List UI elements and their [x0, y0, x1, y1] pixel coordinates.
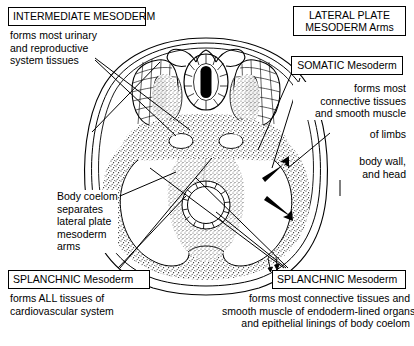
diagram-page: INTERMEDIATE MESODERM forms most urinary…	[0, 0, 414, 346]
label-splanchnic-mesoderm-left-body: forms ALL tissues of cardiovascular syst…	[10, 292, 114, 317]
label-somatic-mesoderm-heading: SOMATIC Mesoderm	[291, 56, 403, 75]
label-lateral-plate-mesoderm-heading: LATERAL PLATE MESODERM Arms	[293, 6, 406, 36]
neural-tube	[184, 54, 228, 110]
label-somatic-of-limbs: of limbs	[330, 128, 406, 141]
label-somatic-mesoderm-body: forms most connective tissues and smooth…	[293, 82, 406, 120]
label-splanchnic-mesoderm-right-body: forms most connective tissues and smooth…	[222, 292, 410, 330]
label-body-coelom: Body coelom separates lateral plate meso…	[57, 190, 118, 253]
label-intermediate-mesoderm-body: forms most urinary and reproductive syst…	[10, 29, 97, 67]
label-intermediate-mesoderm-heading: INTERMEDIATE MESODERM	[8, 7, 146, 26]
label-somatic-body-wall-and-head: body wall, and head	[336, 155, 406, 180]
label-splanchnic-mesoderm-left-heading: SPLANCHNIC Mesoderm	[8, 270, 150, 289]
label-splanchnic-mesoderm-right-heading: SPLANCHNIC Mesoderm	[272, 270, 406, 289]
